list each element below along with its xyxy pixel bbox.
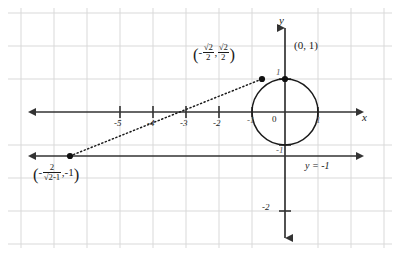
- point-external: [67, 153, 73, 159]
- figure-canvas: [0, 0, 396, 256]
- x-tick-label-minus-1: -1: [247, 116, 255, 125]
- tangency-close-paren: ): [229, 45, 235, 64]
- y-tick-label-1: 1: [276, 68, 281, 77]
- point-label-tangency: (- √2 2 , √2 2 ): [193, 43, 235, 63]
- point-label-top: (0, 1): [294, 40, 318, 51]
- tangency-y-fraction: √2 2: [218, 43, 229, 62]
- point-tangency: [259, 76, 265, 82]
- tangency-x-denominator: 2: [203, 53, 214, 62]
- external-x-fraction: 2 √2-1: [43, 163, 62, 182]
- tangent-ray: [70, 79, 262, 156]
- external-x-denominator: √2-1: [43, 173, 62, 182]
- x-axis-label: x: [362, 112, 367, 123]
- x-tick-label-minus-4: -4: [147, 119, 155, 128]
- x-tick-label-1: 1: [316, 116, 321, 125]
- math-figure: -5 -4 -3 -2 -1 1 1 -1 -2 0 y x (0, 1) y …: [0, 0, 396, 256]
- tangency-minus-sign: -: [199, 46, 203, 58]
- point-label-external: (- 2 √2-1 ,-1): [33, 163, 79, 183]
- y-tick-label-minus-2: -2: [262, 203, 270, 212]
- external-y-value: -1: [64, 166, 73, 178]
- y-tick-label-minus-1: -1: [276, 146, 284, 155]
- tangency-x-fraction: √2 2: [203, 43, 214, 62]
- point-top: [282, 76, 288, 82]
- tangency-y-denominator: 2: [218, 53, 229, 62]
- x-tick-label-minus-3: -3: [180, 119, 188, 128]
- x-tick-label-minus-5: -5: [114, 119, 122, 128]
- external-minus-sign: -: [39, 166, 43, 178]
- origin-label: 0: [272, 115, 277, 124]
- external-close-paren: ): [74, 165, 80, 184]
- y-axis-label: y: [279, 15, 284, 26]
- line-label-y-equals-minus-one: y = -1: [305, 161, 330, 171]
- x-tick-label-minus-2: -2: [213, 119, 221, 128]
